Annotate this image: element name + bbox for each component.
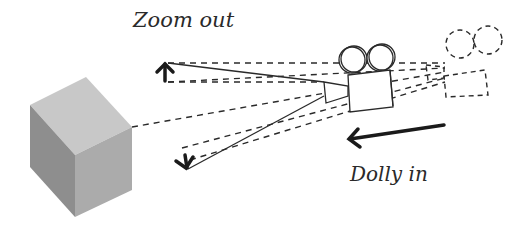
dolly-zoom-diagram (0, 0, 531, 234)
movie-camera-ghost-icon (426, 26, 502, 97)
zoom-out-label: Zoom out (133, 8, 234, 32)
arrow-left-icon (349, 125, 444, 147)
dolly-in-label: Dolly in (350, 162, 428, 186)
arrow-up-icon (157, 64, 173, 81)
movie-camera-icon (324, 44, 395, 112)
cube-icon (30, 77, 132, 217)
arrow-down-icon (176, 155, 193, 168)
